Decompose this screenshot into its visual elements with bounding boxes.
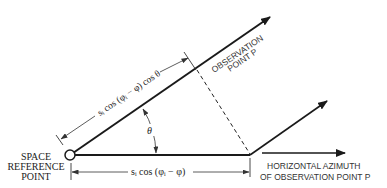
projection-diagram: sᵢ cos (φᵢ − φ) cos θ sᵢ cos (φᵢ − φ) θ …: [0, 0, 387, 188]
slant-dimension-line-right: [160, 58, 188, 72]
horizontal-azimuth-label-1: HORIZONTAL AZIMUTH: [267, 161, 361, 171]
slant-dimension-line-left: [61, 116, 95, 139]
secondary-vector: [250, 101, 327, 155]
horizontal-azimuth-label-2: OF OBSERVATION POINT P: [260, 172, 371, 182]
slant-dimension-label: sᵢ cos (φᵢ − φ) cos θ: [96, 68, 164, 119]
space-reference-label-3: POINT: [21, 171, 50, 182]
projection-dashed-line: [197, 70, 250, 154]
horizontal-dimension-label: sᵢ cos (φᵢ − φ): [131, 166, 185, 178]
space-reference-point: [65, 150, 75, 160]
slant-dimension-tick-start: [56, 135, 63, 145]
angle-label: θ: [147, 125, 152, 136]
slant-dimension-tick-end: [184, 52, 196, 70]
observation-vector: [73, 17, 270, 153]
